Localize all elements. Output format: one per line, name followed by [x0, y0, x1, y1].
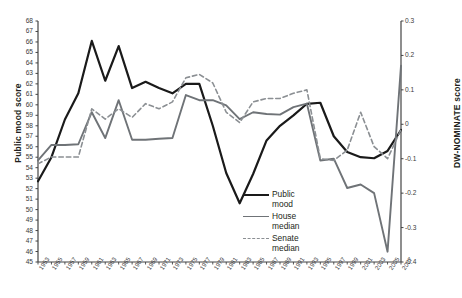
y-tick-label-left: 49	[17, 216, 33, 223]
y-tick-label-left: 60	[17, 101, 33, 108]
y-tick-label-left: 68	[17, 17, 33, 24]
series-line-house-median	[38, 66, 401, 252]
y-tick-label-left: 52	[17, 185, 33, 192]
legend-key-mood	[243, 190, 269, 200]
chart-legend: PublicmoodHousemedianSenatemedian	[243, 190, 299, 257]
y-tick-label-left: 55	[17, 153, 33, 160]
legend-item: Senatemedian	[243, 234, 299, 253]
y-tick-label-right: 0.2	[405, 51, 423, 58]
legend-label-line2: median	[272, 222, 299, 232]
y-tick-label-left: 53	[17, 174, 33, 181]
y-tick-label-left: 57	[17, 132, 33, 139]
y-tick-label-left: 51	[17, 195, 33, 202]
legend-key-senate	[243, 234, 269, 244]
legend-label: Publicmood	[272, 190, 295, 209]
legend-label: Senatemedian	[272, 234, 299, 253]
series-line-public-mood	[38, 41, 401, 203]
legend-item: Housemedian	[243, 212, 299, 231]
y-tick-label-left: 65	[17, 48, 33, 55]
y-tick-label-right: 0.3	[405, 17, 423, 24]
y-tick-label-right: -0.1	[405, 155, 423, 162]
y-tick-label-left: 54	[17, 164, 33, 171]
legend-label: Housemedian	[272, 212, 299, 231]
y-tick-label-left: 62	[17, 80, 33, 87]
y-tick-label-left: 59	[17, 111, 33, 118]
legend-label-line2: median	[272, 244, 299, 254]
y-tick-label-left: 50	[17, 206, 33, 213]
legend-label-line2: mood	[272, 200, 295, 210]
y-tick-label-left: 64	[17, 59, 33, 66]
y-tick-label-left: 48	[17, 227, 33, 234]
legend-key-house	[243, 212, 269, 222]
y-tick-label-left: 63	[17, 69, 33, 76]
y-tick-label-left: 67	[17, 27, 33, 34]
y-tick-label-left: 47	[17, 237, 33, 244]
y-tick-label-left: 45	[17, 258, 33, 265]
y-tick-label-left: 58	[17, 122, 33, 129]
y-tick-label-right: 0.1	[405, 86, 423, 93]
y-tick-label-right: -0.2	[405, 189, 423, 196]
y-tick-label-right: 0	[405, 120, 423, 127]
y-tick-label-left: 61	[17, 90, 33, 97]
y-tick-label-right: -0.3	[405, 224, 423, 231]
y-tick-label-left: 56	[17, 143, 33, 150]
y-tick-label-left: 46	[17, 248, 33, 255]
legend-item: Publicmood	[243, 190, 299, 209]
y-tick-label-left: 66	[17, 38, 33, 45]
